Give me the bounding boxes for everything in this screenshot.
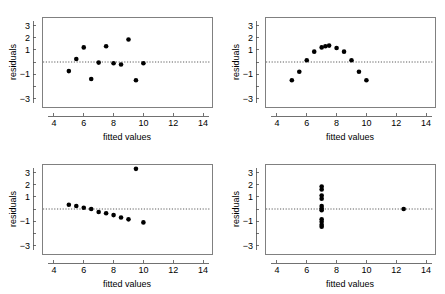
y-tick-label: 1 bbox=[248, 192, 253, 202]
data-point bbox=[304, 58, 309, 63]
y-tick-label: 3 bbox=[25, 168, 30, 178]
data-point bbox=[74, 204, 79, 209]
y-tick-label: 3 bbox=[25, 21, 30, 31]
y-tick-label: 3 bbox=[248, 168, 253, 178]
y-tick-label: −1 bbox=[20, 216, 30, 226]
x-tick-label: 10 bbox=[138, 118, 148, 128]
data-point bbox=[134, 167, 139, 172]
residual-plot-figure: 468101214fitted values321−1−3residuals46… bbox=[0, 0, 445, 294]
data-point bbox=[74, 57, 79, 62]
data-point bbox=[126, 217, 131, 222]
x-axis-title: fitted values bbox=[103, 132, 152, 142]
y-axis-title: residuals bbox=[231, 43, 241, 80]
data-point bbox=[96, 210, 101, 215]
scatter-plot-3: 468101214fitted values321−1−3residuals bbox=[0, 147, 222, 294]
data-points bbox=[67, 37, 146, 82]
x-tick-label: 8 bbox=[334, 118, 339, 128]
x-tick-label: 4 bbox=[274, 118, 279, 128]
y-tick-label: 2 bbox=[25, 33, 30, 43]
data-point bbox=[111, 213, 116, 218]
x-tick-label: 12 bbox=[391, 118, 401, 128]
x-tick-label: 6 bbox=[304, 118, 309, 128]
x-tick-label: 4 bbox=[51, 265, 56, 275]
data-point bbox=[319, 224, 324, 229]
y-tick-label: −1 bbox=[243, 216, 253, 226]
x-tick-label: 14 bbox=[421, 118, 431, 128]
data-point bbox=[104, 211, 109, 216]
data-point bbox=[349, 58, 354, 63]
x-tick-label: 12 bbox=[168, 265, 178, 275]
x-tick-label: 10 bbox=[361, 265, 371, 275]
x-tick-label: 14 bbox=[198, 265, 208, 275]
y-tick-label: 2 bbox=[248, 33, 253, 43]
data-point bbox=[104, 44, 109, 49]
y-tick-label: −1 bbox=[20, 69, 30, 79]
data-point bbox=[141, 220, 146, 225]
scatter-plot-2: 468101214fitted values321−1−3residuals bbox=[223, 0, 445, 147]
data-point bbox=[319, 208, 324, 213]
x-tick-label: 8 bbox=[111, 265, 116, 275]
scatter-plot-4: 468101214fitted values321−1−3residuals bbox=[223, 147, 445, 294]
x-tick-label: 12 bbox=[391, 265, 401, 275]
x-tick-label: 6 bbox=[304, 265, 309, 275]
y-tick-label: 2 bbox=[25, 180, 30, 190]
x-tick-label: 10 bbox=[138, 265, 148, 275]
x-tick-label: 10 bbox=[361, 118, 371, 128]
data-point bbox=[134, 78, 139, 83]
y-tick-label: −3 bbox=[243, 94, 253, 104]
y-tick-label: −1 bbox=[243, 69, 253, 79]
x-tick-label: 4 bbox=[274, 265, 279, 275]
data-point bbox=[67, 202, 72, 207]
data-point bbox=[67, 69, 72, 74]
data-point bbox=[342, 49, 347, 54]
y-tick-label: 3 bbox=[248, 21, 253, 31]
data-point bbox=[119, 62, 124, 67]
residual-plot-panel-4: 468101214fitted values321−1−3residuals bbox=[223, 147, 445, 294]
y-tick-label: −3 bbox=[20, 94, 30, 104]
y-tick-label: −3 bbox=[243, 241, 253, 251]
residual-plot-panel-1: 468101214fitted values321−1−3residuals bbox=[0, 0, 222, 147]
data-points bbox=[290, 43, 369, 82]
y-tick-label: 2 bbox=[248, 180, 253, 190]
x-axis-title: fitted values bbox=[103, 279, 152, 289]
data-point bbox=[401, 207, 406, 212]
data-point bbox=[334, 46, 339, 51]
x-tick-label: 8 bbox=[334, 265, 339, 275]
x-tick-label: 14 bbox=[421, 265, 431, 275]
data-point bbox=[319, 196, 324, 201]
data-point bbox=[96, 60, 101, 65]
x-axis-title: fitted values bbox=[326, 132, 375, 142]
data-point bbox=[126, 37, 131, 42]
x-axis-title: fitted values bbox=[326, 279, 375, 289]
residual-plot-panel-2: 468101214fitted values321−1−3residuals bbox=[223, 0, 445, 147]
scatter-plot-1: 468101214fitted values321−1−3residuals bbox=[0, 0, 222, 147]
y-axis-title: residuals bbox=[8, 43, 18, 80]
x-tick-label: 4 bbox=[51, 118, 56, 128]
data-point bbox=[364, 78, 369, 83]
x-tick-label: 6 bbox=[81, 265, 86, 275]
y-axis-title: residuals bbox=[8, 190, 18, 227]
y-tick-label: −3 bbox=[20, 241, 30, 251]
x-tick-label: 8 bbox=[111, 118, 116, 128]
data-point bbox=[327, 43, 332, 48]
data-point bbox=[312, 49, 317, 54]
data-points bbox=[319, 184, 406, 229]
x-tick-label: 6 bbox=[81, 118, 86, 128]
y-tick-label: 1 bbox=[25, 192, 30, 202]
residual-plot-panel-3: 468101214fitted values321−1−3residuals bbox=[0, 147, 222, 294]
y-tick-label: 1 bbox=[25, 45, 30, 55]
y-axis-title: residuals bbox=[231, 190, 241, 227]
data-point bbox=[119, 215, 124, 220]
data-point bbox=[141, 61, 146, 66]
data-point bbox=[357, 69, 362, 74]
data-point bbox=[81, 45, 86, 50]
data-point bbox=[290, 78, 295, 83]
y-tick-label: 1 bbox=[248, 45, 253, 55]
data-point bbox=[319, 187, 324, 192]
data-point bbox=[81, 205, 86, 210]
data-points bbox=[67, 167, 146, 225]
x-tick-label: 14 bbox=[198, 118, 208, 128]
x-tick-label: 12 bbox=[168, 118, 178, 128]
data-point bbox=[89, 77, 94, 82]
data-point bbox=[297, 69, 302, 74]
